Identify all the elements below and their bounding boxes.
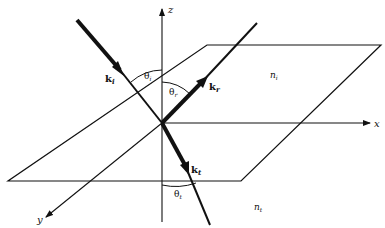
nt-label: nt xyxy=(254,202,263,213)
y-axis xyxy=(46,123,162,217)
diagram-canvas: z x y ki kr kt θi θr θt ni nt xyxy=(0,0,385,228)
transmitted-ray xyxy=(162,123,185,165)
incident-ray xyxy=(77,20,120,70)
y-axis-label: y xyxy=(36,214,43,225)
theta-t-arc xyxy=(162,183,196,186)
ni-label: ni xyxy=(270,70,278,81)
theta-t-label: θt xyxy=(174,189,182,200)
ki-label: ki xyxy=(105,73,115,86)
x-axis-label: x xyxy=(374,118,380,129)
kr-label: kr xyxy=(209,81,221,94)
theta-r-label: θr xyxy=(169,87,178,98)
interface-plane xyxy=(8,45,381,181)
kt-label: kt xyxy=(191,164,202,177)
z-axis-label: z xyxy=(167,4,174,15)
reflected-ray xyxy=(162,84,200,123)
theta-i-label: θi xyxy=(144,71,151,82)
